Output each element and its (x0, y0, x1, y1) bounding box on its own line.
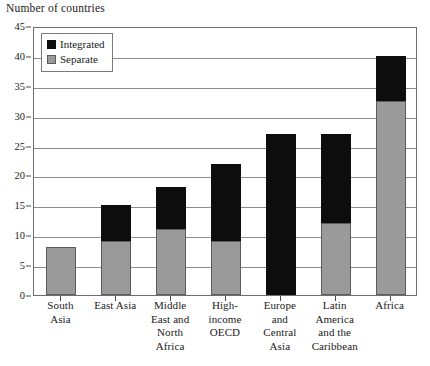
x-axis-label-line: income (198, 313, 253, 327)
x-axis-label-line: and (252, 313, 307, 327)
bar-group (211, 26, 241, 295)
y-axis-tick-mark (26, 176, 31, 177)
y-axis-tick-mark (26, 206, 31, 207)
y-axis-tick-label: 15 (15, 201, 26, 212)
bar-segment-separate (376, 101, 406, 295)
y-axis-tick-label: 35 (15, 82, 26, 93)
x-axis-label-line: High- (198, 299, 253, 313)
y-axis: 051015202530354045 (0, 27, 31, 296)
y-axis-tick-label: 10 (15, 231, 26, 242)
x-axis-label-line: Caribbean (307, 340, 362, 354)
x-axis-label-line: America (307, 313, 362, 327)
y-axis-tick-label: 45 (15, 22, 26, 33)
y-axis-tick-mark (26, 27, 31, 28)
bar-segment-separate (156, 229, 186, 295)
x-axis-label-line: Asia (252, 340, 307, 354)
legend-item: Integrated (47, 37, 105, 52)
bar-segment-integrated (266, 134, 296, 295)
x-axis-labels: SouthAsiaEast AsiaMiddleEast andNorthAfr… (33, 299, 417, 365)
x-axis-label-line: North (143, 326, 198, 340)
legend-item: Separate (47, 52, 105, 67)
bar-segment-separate (321, 223, 351, 295)
x-axis-label-line: Middle (143, 299, 198, 313)
y-axis-tick-mark (26, 56, 31, 57)
bar-group (321, 26, 351, 295)
x-axis-category-label: High-incomeOECD (198, 299, 253, 340)
y-axis-tick-mark (26, 296, 31, 297)
legend-label: Integrated (60, 39, 105, 50)
bar-group (266, 26, 296, 295)
bar-segment-integrated (211, 164, 241, 242)
bar-segment-integrated (101, 205, 131, 241)
y-axis-tick-mark (26, 266, 31, 267)
x-axis-label-line: OECD (198, 326, 253, 340)
y-axis-tick-label: 25 (15, 141, 26, 152)
bar-group (376, 26, 406, 295)
y-axis-tick-label: 40 (15, 52, 26, 63)
bar-segment-integrated (376, 56, 406, 101)
chart-title: Number of countries (6, 2, 105, 14)
y-axis-tick-label: 0 (20, 291, 25, 302)
x-axis-label-line: Europe (252, 299, 307, 313)
y-axis-tick-mark (26, 236, 31, 237)
bar-segment-integrated (156, 187, 186, 229)
legend-label: Separate (60, 54, 98, 65)
x-axis-category-label: East Asia (88, 299, 143, 313)
x-axis-label-line: Africa (143, 340, 198, 354)
legend-swatch-integrated-icon (47, 40, 56, 49)
y-axis-tick-mark (26, 86, 31, 87)
x-axis-label-line: and the (307, 326, 362, 340)
x-axis-label-line: Latin (307, 299, 362, 313)
x-axis-label-line: East Asia (88, 299, 143, 313)
x-axis-label-line: Central (252, 326, 307, 340)
bar-segment-separate (46, 247, 76, 295)
y-axis-tick-mark (26, 146, 31, 147)
bar-segment-separate (211, 241, 241, 295)
x-axis-category-label: MiddleEast andNorthAfrica (143, 299, 198, 353)
x-axis-label-line: East and (143, 313, 198, 327)
x-axis-label-line: Asia (33, 313, 88, 327)
bar-segment-separate (101, 241, 131, 295)
y-axis-tick-label: 5 (20, 261, 25, 272)
x-axis-category-label: Africa (362, 299, 417, 313)
chart-legend: IntegratedSeparate (41, 33, 113, 72)
legend-swatch-separate-icon (47, 55, 56, 64)
x-axis-label-line: Africa (362, 299, 417, 313)
x-axis-category-label: EuropeandCentralAsia (252, 299, 307, 353)
y-axis-tick-label: 30 (15, 111, 26, 122)
x-axis-category-label: SouthAsia (33, 299, 88, 326)
x-axis-category-label: LatinAmericaand theCaribbean (307, 299, 362, 353)
bar-segment-integrated (321, 134, 351, 224)
bar-group (156, 26, 186, 295)
y-axis-tick-mark (26, 116, 31, 117)
y-axis-tick-label: 20 (15, 171, 26, 182)
x-axis-label-line: South (33, 299, 88, 313)
